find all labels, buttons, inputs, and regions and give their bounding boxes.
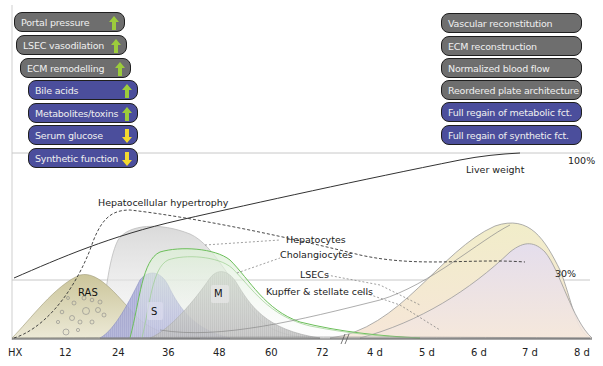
label-hepatocytes: Hepatocytes xyxy=(286,234,346,245)
x-tick: 24 xyxy=(112,347,125,358)
pill-label: Synthetic function xyxy=(35,153,118,164)
pill-label: ECM remodelling xyxy=(27,63,104,74)
label-lsecs: LSECs xyxy=(300,269,329,280)
pill-lsec-vasodilation: LSEC vasodilation xyxy=(16,35,127,55)
x-tick: 36 xyxy=(162,347,175,358)
label-liver-weight: Liver weight xyxy=(466,164,525,175)
label-hypertrophy: Hepatocellular hypertrophy xyxy=(98,197,229,208)
x-tick: 5 d xyxy=(419,347,435,358)
pill-bile-acids: Bile acids xyxy=(28,80,138,100)
liver-weight-curve xyxy=(14,153,520,278)
pill-label: Portal pressure xyxy=(21,17,89,28)
ras-label: RAS xyxy=(78,287,98,298)
pill-metabolic-function: Full regain of metabolic fct. xyxy=(441,102,582,122)
x-tick: 60 xyxy=(265,347,278,358)
arrow-up-icon xyxy=(109,16,119,30)
x-tick: 12 xyxy=(59,347,72,358)
pill-serum-glucose: Serum glucose xyxy=(28,125,138,145)
m-label: M xyxy=(214,288,223,299)
label-kupffer: Kupffer & stellate cells xyxy=(266,286,373,297)
pill-reordered-plate-architecture: Reordered plate architecture xyxy=(441,80,582,100)
hepatocytes-connector xyxy=(205,240,280,245)
x-tick: 4 d xyxy=(367,347,383,358)
arrow-up-icon xyxy=(115,62,125,76)
arrow-up-icon xyxy=(122,107,132,121)
pill-synthetic-function-regain: Full regain of synthetic fct. xyxy=(441,125,582,145)
pill-label: Normalized blood flow xyxy=(448,63,550,74)
label-100-percent: 100% xyxy=(568,155,595,166)
x-tick: 7 d xyxy=(522,347,538,358)
pill-label: LSEC vasodilation xyxy=(23,40,104,51)
pill-metabolites-toxins: Metabolites/toxins xyxy=(28,103,138,123)
x-tick: 6 d xyxy=(471,347,487,358)
pill-normalized-blood-flow: Normalized blood flow xyxy=(441,58,582,78)
pill-label: ECM reconstruction xyxy=(448,41,537,52)
pill-ecm-remodelling: ECM remodelling xyxy=(20,58,131,78)
pill-label: Vascular reconstitution xyxy=(448,18,552,29)
pill-ecm-reconstruction: ECM reconstruction xyxy=(441,36,582,56)
s-label: S xyxy=(151,306,157,317)
x-tick: 8 d xyxy=(574,347,590,358)
label-cholangiocytes: Cholangiocytes xyxy=(280,249,353,260)
pill-label: Metabolites/toxins xyxy=(35,108,118,119)
pill-vascular-reconstitution: Vascular reconstitution xyxy=(441,13,582,33)
pill-label: Full regain of synthetic fct. xyxy=(448,130,569,141)
x-tick: HX xyxy=(8,347,23,358)
arrow-down-icon xyxy=(122,152,132,166)
arrow-up-icon xyxy=(122,84,132,98)
pill-label: Full regain of metabolic fct. xyxy=(448,107,572,118)
x-tick: 48 xyxy=(213,347,226,358)
arrow-up-icon xyxy=(111,39,121,53)
pill-label: Reordered plate architecture xyxy=(448,85,579,96)
cholangiocytes-connector xyxy=(237,258,280,273)
pill-synthetic-function: Synthetic function xyxy=(28,148,138,168)
arrow-down-icon xyxy=(122,129,132,143)
pill-label: Serum glucose xyxy=(35,130,103,141)
label-30-percent: 30% xyxy=(555,268,576,279)
pill-label: Bile acids xyxy=(35,85,78,96)
x-tick: 72 xyxy=(316,347,329,358)
pill-portal-pressure: Portal pressure xyxy=(14,12,125,32)
